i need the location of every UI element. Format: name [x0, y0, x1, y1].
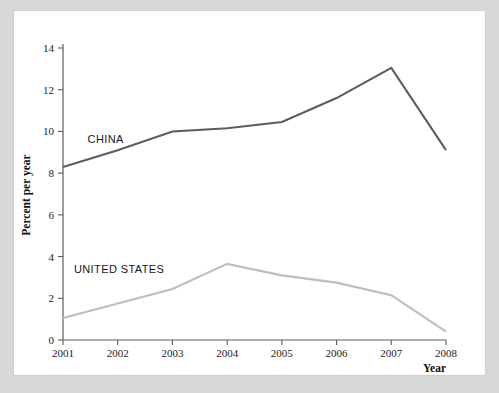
y-tick-label: 10 [43, 125, 55, 137]
y-tick-label: 12 [43, 84, 54, 96]
x-axis-ticks: 20012002200320042005200620072008 [52, 340, 458, 359]
series-lines [63, 68, 446, 332]
y-tick-label: 14 [43, 42, 55, 54]
x-axis-title: Year [423, 362, 446, 374]
x-tick-label: 2003 [161, 347, 184, 359]
series-label-china: CHINA [88, 133, 124, 145]
x-tick-label: 2008 [435, 347, 458, 359]
x-tick-label: 2001 [52, 347, 74, 359]
y-tick-label: 0 [49, 334, 55, 346]
x-tick-label: 2002 [107, 347, 129, 359]
series-line-china [63, 68, 446, 167]
y-tick-label: 2 [49, 292, 55, 304]
series-label-united-states: UNITED STATES [74, 263, 164, 275]
y-tick-label: 4 [49, 251, 55, 263]
y-tick-label: 6 [49, 209, 55, 221]
x-tick-label: 2004 [216, 347, 239, 359]
x-tick-label: 2006 [326, 347, 349, 359]
x-tick-label: 2007 [380, 347, 403, 359]
y-tick-label: 8 [49, 167, 55, 179]
figure-page: 02468101214 2001200220032004200520062007… [0, 0, 499, 393]
y-axis-ticks: 02468101214 [43, 42, 63, 346]
line-chart: 02468101214 2001200220032004200520062007… [0, 0, 499, 393]
chart-plot: 02468101214 2001200220032004200520062007… [0, 0, 499, 393]
x-tick-label: 2005 [271, 347, 294, 359]
y-axis-title: Percent per year [20, 154, 33, 235]
